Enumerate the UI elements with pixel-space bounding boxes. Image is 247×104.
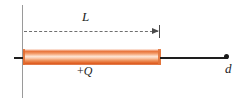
length-measure-end-tick: [159, 25, 160, 38]
charge-symbol: Q: [84, 64, 93, 78]
length-label: L: [82, 10, 89, 23]
horizontal-axis: [160, 57, 228, 59]
charged-rod-figure: L +Q d: [0, 0, 247, 104]
charged-rod-left-end: [23, 49, 25, 65]
charge-label: +Q: [77, 65, 92, 77]
distance-label: d: [225, 62, 232, 75]
length-measure-dashed-line: [24, 31, 158, 32]
charged-rod: [23, 49, 161, 65]
length-measure-arrowhead-icon: [152, 28, 159, 34]
charge-sign: +: [77, 64, 84, 78]
field-point: [224, 54, 229, 59]
